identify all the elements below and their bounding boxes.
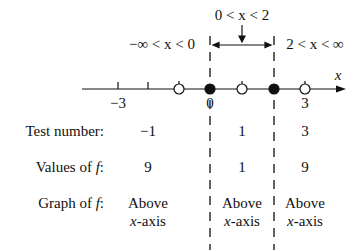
graph-f-left-line2: x-axis xyxy=(129,213,166,229)
sign-chart-diagram: −∞ < x < 0 0 < x < 2 2 < x < ∞ x −3 0 3 … xyxy=(0,0,353,251)
tick-label-neg3: −3 xyxy=(110,95,126,111)
open-point-icon xyxy=(174,84,184,94)
arrow-head-icon xyxy=(336,86,346,93)
test-number-right: 3 xyxy=(301,123,309,139)
graph-f-left-line1: Above xyxy=(128,195,168,211)
closed-point-icon xyxy=(269,84,279,94)
open-point-icon xyxy=(300,84,310,94)
open-point-icon xyxy=(237,84,247,94)
graph-f-right-line2: x-axis xyxy=(286,213,323,229)
row-label-values-of-f: Values of f: xyxy=(36,159,104,175)
test-number-left: −1 xyxy=(140,123,156,139)
graph-f-middle-line1: Above xyxy=(222,195,262,211)
value-f-left: 9 xyxy=(144,159,152,175)
number-line xyxy=(82,81,346,94)
axis-variable-label: x xyxy=(334,67,342,83)
value-f-right: 9 xyxy=(301,159,309,175)
interval-middle-label: 0 < x < 2 xyxy=(215,7,269,23)
graph-f-middle-line2: x-axis xyxy=(223,213,260,229)
graph-f-right-line1: Above xyxy=(285,195,325,211)
row-label-test-number: Test number: xyxy=(25,123,104,139)
interval-left-label: −∞ < x < 0 xyxy=(129,36,195,52)
closed-point-icon xyxy=(205,84,215,94)
interval-right-label: 2 < x < ∞ xyxy=(286,36,344,52)
row-label-graph-of-f: Graph of f: xyxy=(38,195,104,211)
tick-label-3: 3 xyxy=(301,95,309,111)
value-f-middle: 1 xyxy=(238,159,246,175)
tick-label-0: 0 xyxy=(206,95,214,111)
middle-interval-indicator xyxy=(213,25,271,48)
test-number-middle: 1 xyxy=(238,123,246,139)
